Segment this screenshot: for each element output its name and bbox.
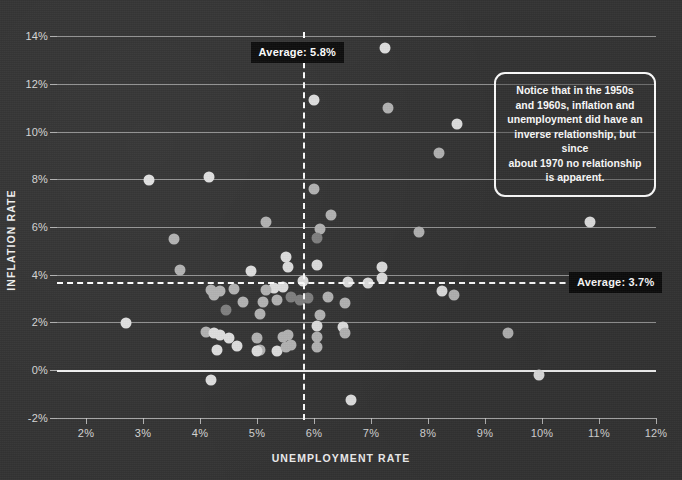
y-axis-tick-label: -2% [28, 412, 48, 424]
y-axis-tick-label: 0% [32, 364, 48, 376]
y-axis-tick-label: 12% [25, 78, 48, 90]
gridline-4 [57, 275, 656, 276]
x-axis-tick-label: 4% [192, 427, 208, 439]
x-tick-mark [656, 418, 657, 424]
x-axis-tick-label: 5% [249, 427, 265, 439]
y-tick-mark [50, 275, 57, 276]
data-point [237, 297, 248, 308]
x-axis-tick-label: 8% [420, 427, 436, 439]
inflation-unemployment-scatter-chart: -2%0%2%4%6%8%10%12%14% 2%3%4%5%6%7%8%9%1… [0, 0, 682, 480]
y-tick-mark [50, 227, 57, 228]
gridline-14 [57, 36, 656, 37]
data-point [311, 232, 322, 243]
data-point [309, 183, 320, 194]
data-point [206, 374, 217, 385]
callout-line-4: inverse relationship, but since [506, 127, 644, 156]
data-point [286, 339, 297, 350]
data-point [380, 43, 391, 54]
data-point [309, 95, 320, 106]
callout-line-6: is apparent. [506, 170, 644, 185]
data-point [448, 289, 459, 300]
callout-line-5: about 1970 no relationship [506, 156, 644, 171]
data-point [340, 298, 351, 309]
x-axis-title: UNEMPLOYMENT RATE [0, 452, 682, 464]
data-point [451, 119, 462, 130]
data-point [254, 308, 265, 319]
data-point [283, 262, 294, 273]
y-tick-mark [50, 370, 57, 371]
y-axis-tick-label: 6% [32, 221, 48, 233]
data-point [252, 332, 263, 343]
data-point [120, 318, 131, 329]
data-point [143, 175, 154, 186]
gridline-6 [57, 227, 656, 228]
y-axis-tick-label: 14% [25, 30, 48, 42]
x-axis-tick-label: 2% [78, 427, 94, 439]
data-point [271, 294, 282, 305]
data-point [314, 310, 325, 321]
data-point [232, 341, 243, 352]
average-inflation-badge: Average: 3.7% [569, 272, 662, 293]
data-point [585, 217, 596, 228]
data-point [220, 305, 231, 316]
data-point [502, 328, 513, 339]
y-tick-mark [50, 84, 57, 85]
x-axis-line [57, 418, 656, 419]
callout-line-1: Notice that in the 1950s [506, 83, 644, 98]
y-tick-mark [50, 418, 57, 419]
y-tick-mark [50, 179, 57, 180]
data-point [257, 297, 268, 308]
data-point [260, 285, 271, 296]
data-point [175, 264, 186, 275]
x-axis-tick-label: 10% [531, 427, 554, 439]
data-point [326, 209, 337, 220]
callout-line-2: and 1960s, inflation and [506, 98, 644, 113]
data-point [229, 283, 240, 294]
y-axis-tick-label: 4% [32, 269, 48, 281]
x-axis-tick-label: 3% [135, 427, 151, 439]
y-tick-mark [50, 36, 57, 37]
data-point [206, 285, 217, 296]
data-point [311, 342, 322, 353]
gridline-0 [57, 370, 656, 372]
data-point [534, 369, 545, 380]
x-axis-tick-label: 9% [477, 427, 493, 439]
y-axis-title: INFLATION RATE [5, 189, 17, 290]
y-tick-mark [50, 322, 57, 323]
callout-line-3: unemployment did have an [506, 112, 644, 127]
data-point [203, 171, 214, 182]
annotation-callout: Notice that in the 1950s and 1960s, infl… [494, 72, 656, 197]
y-axis-tick-label: 2% [32, 316, 48, 328]
y-tick-mark [50, 132, 57, 133]
data-point [212, 344, 223, 355]
data-point [340, 328, 351, 339]
y-axis-tick-label: 8% [32, 173, 48, 185]
gridline-2 [57, 322, 656, 323]
data-point [377, 262, 388, 273]
data-point [246, 266, 257, 277]
x-axis-tick-label: 12% [645, 427, 668, 439]
data-point [260, 217, 271, 228]
x-axis-tick-label: 6% [306, 427, 322, 439]
average-unemployment-reference-line [303, 32, 305, 420]
data-point [280, 251, 291, 262]
data-point [252, 345, 263, 356]
average-unemployment-badge: Average: 5.8% [251, 42, 344, 63]
data-point [311, 331, 322, 342]
data-point [434, 147, 445, 158]
data-point [169, 233, 180, 244]
x-axis-tick-label: 7% [363, 427, 379, 439]
x-axis-tick-label: 11% [588, 427, 610, 439]
data-point [383, 102, 394, 113]
data-point [437, 286, 448, 297]
data-point [311, 260, 322, 271]
average-inflation-reference-line [57, 282, 656, 284]
data-point [323, 292, 334, 303]
data-point [414, 226, 425, 237]
data-point [346, 394, 357, 405]
y-axis-tick-label: 10% [25, 126, 48, 138]
data-point [311, 320, 322, 331]
